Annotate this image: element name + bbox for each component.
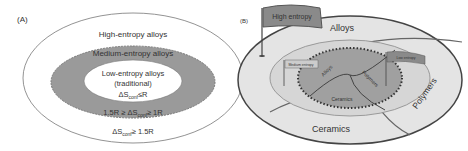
- medium-entropy-label: Medium-entropy alloys: [93, 49, 173, 58]
- high-entropy-label: High-entropy alloys: [99, 30, 167, 39]
- panel-b: (B) Alloys Polymers Ceramics Alloys Poly…: [238, 5, 462, 144]
- low-entropy-label: Low-entropy alloys: [102, 69, 165, 78]
- medium-entropy-flag-text: Medium entropy: [288, 63, 313, 67]
- outer-ceramics-label: Ceramics: [312, 124, 351, 134]
- inner-ceramics-label: Ceramics: [331, 96, 353, 102]
- medium-entropy-condition: 1.5R ≥ ΔSconf≥ 1R: [103, 108, 163, 118]
- high-entropy-condition: ΔSconf≥ 1.5R: [112, 127, 154, 137]
- high-entropy-flag-text: High entropy: [272, 13, 312, 21]
- panel-a: (A) High-entropy alloys Medium-entropy a…: [17, 13, 243, 143]
- low-entropy-flag-text: Low entropy: [396, 56, 415, 60]
- traditional-label: (traditional): [114, 79, 152, 88]
- outer-alloys-label: Alloys: [330, 23, 355, 33]
- panel-a-label: (A): [17, 15, 28, 24]
- figure: (A) High-entropy alloys Medium-entropy a…: [0, 0, 468, 151]
- panel-b-label: (B): [240, 18, 248, 24]
